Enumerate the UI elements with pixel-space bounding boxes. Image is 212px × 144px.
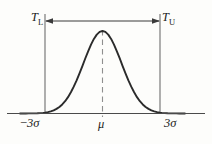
normal-distribution-figure: TL TU −3σ μ 3σ	[0, 0, 212, 144]
upper-tolerance-label: TU	[162, 11, 175, 26]
lower-sigma-tick-label: −3σ	[20, 117, 39, 130]
lower-tolerance-label: TL	[31, 11, 43, 26]
upper-sigma-tick-label: 3σ	[164, 117, 176, 130]
lower-tolerance-label-subscript: L	[38, 17, 43, 27]
upper-tolerance-label-base: T	[162, 10, 169, 24]
lower-tolerance-label-base: T	[31, 10, 38, 24]
tolerance-span-arrow	[45, 18, 160, 24]
mean-tick-label: μ	[98, 118, 104, 131]
minus-sign: −	[20, 116, 27, 130]
upper-tolerance-label-subscript: U	[169, 17, 175, 27]
lower-sigma-value: 3σ	[27, 116, 39, 130]
